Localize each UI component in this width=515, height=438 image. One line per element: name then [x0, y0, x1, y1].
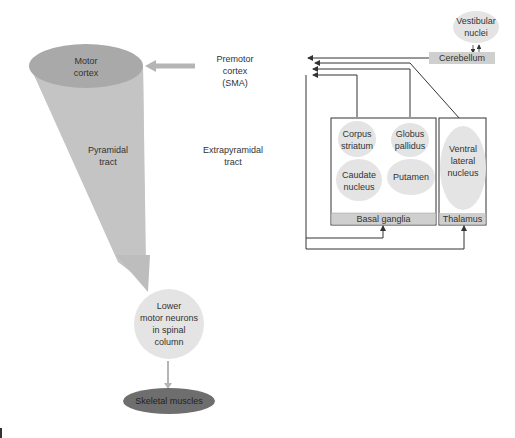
skeletal-muscles-label: Skeletal muscles — [123, 395, 215, 407]
putamen-label: Putamen — [386, 171, 436, 183]
thalamus-label: Thalamus — [439, 213, 486, 225]
basal-ganglia-label: Basal ganglia — [331, 213, 436, 225]
motor-cortex-label: Motor cortex — [56, 55, 116, 79]
pyramidal-tract-label: Pyramidal tract — [78, 144, 138, 168]
globus-pallidus-label: Globus pallidus — [385, 128, 435, 152]
extrapyramidal-tract-label: Extrapyramidal tract — [193, 144, 273, 168]
pyramidal-arrowhead — [116, 255, 150, 292]
premotor-cortex-label: Premotor cortex (SMA) — [205, 53, 265, 89]
caudate-nucleus-label: Caudate nucleus — [334, 169, 384, 193]
corpus-striatum-label: Corpus striatum — [332, 128, 382, 152]
lower-motor-neurons-label: Lower motor neurons in spinal column — [129, 300, 209, 348]
cerebellum-label: Cerebellum — [429, 52, 495, 64]
ventral-lateral-nucleus-label: Ventral lateral nucleus — [440, 143, 486, 179]
vestibular-nuclei-label: Vestibular nuclei — [446, 15, 506, 39]
